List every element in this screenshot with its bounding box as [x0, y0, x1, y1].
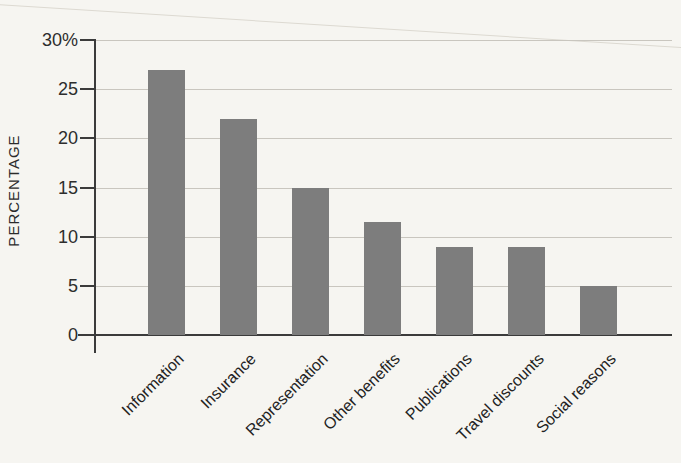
y-tick-mark: [80, 334, 94, 336]
y-tick-label: 10: [14, 227, 78, 247]
y-tick-label: 0: [14, 325, 78, 345]
y-tick-label: 15: [14, 178, 78, 198]
y-tick-mark: [80, 39, 94, 41]
y-tick-mark: [80, 88, 94, 90]
bar-social-reasons: [580, 286, 617, 335]
y-tick-label: 25: [14, 79, 78, 99]
y-tick-mark: [80, 187, 94, 189]
y-tick-label: 30%: [14, 30, 78, 50]
x-tick-label: Social reasons: [486, 350, 619, 463]
bar-information: [148, 70, 185, 335]
bar-other-benefits: [364, 222, 401, 335]
gridline: [96, 40, 672, 41]
scanned-bar-chart-page: PERCENTAGE 051015202530% InformationInsu…: [0, 0, 681, 463]
y-tick-mark: [80, 285, 94, 287]
bar-representation: [292, 188, 329, 335]
y-tick-mark: [80, 236, 94, 238]
bar-publications: [436, 247, 473, 335]
bar-chart: PERCENTAGE 051015202530% InformationInsu…: [0, 0, 681, 463]
y-axis-line: [94, 39, 96, 353]
y-tick-mark: [80, 137, 94, 139]
y-tick-label: 20: [14, 128, 78, 148]
bar-travel-discounts: [508, 247, 545, 335]
y-tick-label: 5: [14, 276, 78, 296]
bar-insurance: [220, 119, 257, 335]
